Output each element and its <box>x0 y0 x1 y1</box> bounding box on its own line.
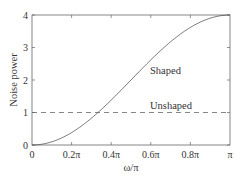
x-tick-2: 0.4π <box>102 149 120 160</box>
y-tick-2: 2 <box>23 75 28 86</box>
y-tick-3: 3 <box>23 42 28 53</box>
x-tick-0: 0 <box>30 149 35 160</box>
y-tick-1: 1 <box>23 107 28 118</box>
x-tick-3: 0.6π <box>142 149 160 160</box>
x-axis-label: ω/π <box>123 162 139 173</box>
y-axis-label: Noise power <box>8 53 19 107</box>
x-tick-4: 0.8π <box>182 149 200 160</box>
y-tick-4: 4 <box>23 10 28 21</box>
x-tick-5: π <box>227 149 232 160</box>
shaped-curve <box>32 15 230 145</box>
shaped-annotation: Shaped <box>150 65 182 76</box>
unshaped-annotation: Unshaped <box>150 100 193 111</box>
y-tick-0: 0 <box>23 140 28 151</box>
x-tick-1: 0.2π <box>63 149 81 160</box>
noise-power-chart: 0 1 2 3 4 0 0.2π 0.4π 0.6π 0.8π π ω/π No… <box>0 0 245 183</box>
